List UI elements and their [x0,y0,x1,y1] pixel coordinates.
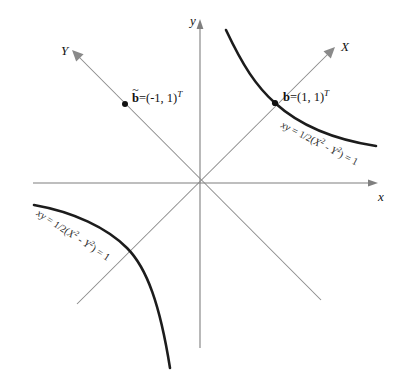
point-equals-b-tilde: = [139,91,146,105]
point-dot-b [272,100,278,106]
y-axis-label: y [190,14,196,27]
Y-axis-label: Y [61,44,68,57]
point-transpose-b-tilde: T [177,89,182,99]
X-axis-label: X [341,40,349,53]
point-coords-b-tilde: (-1, 1) [146,91,177,105]
point-symbol-b-tilde: ~b [132,92,139,105]
point-label-b: b=(1, 1)T [283,89,329,104]
y-axis-arrow-icon [197,19,204,29]
point-coords-b: (1, 1) [297,90,324,104]
x-axis-arrow-icon [368,180,378,187]
point-symbol-b: b [283,91,290,104]
tilde-accent-icon: ~ [132,85,139,97]
x-axis-label: x [378,190,384,203]
point-label-b-tilde: ~b=(-1, 1)T [132,90,182,105]
point-transpose-b: T [324,88,329,98]
point-dot-b-tilde [122,101,128,107]
hyperbola-figure: y x X Y b=(1, 1)T ~b=(-1, 1)T xy = 1/2(X… [0,0,404,371]
point-equals-b: = [290,90,297,104]
